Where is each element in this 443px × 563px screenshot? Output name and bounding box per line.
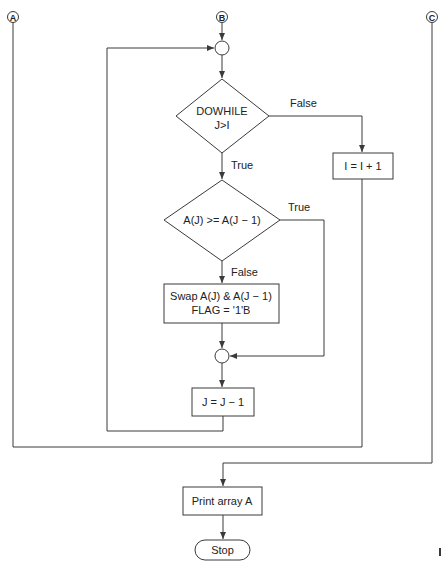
- label-dowhile-false: False: [290, 97, 317, 109]
- connector-c-label: C: [429, 13, 436, 23]
- process-increment-i: I = I + 1: [333, 153, 393, 179]
- connector-b-label: B: [219, 13, 226, 23]
- process-decrement-j-label: J = J − 1: [202, 396, 244, 408]
- decision-compare: A(J) >= A(J − 1): [164, 180, 280, 261]
- process-swap-line2: FLAG = '1'B: [192, 304, 251, 316]
- label-dowhile-true: True: [231, 159, 253, 171]
- connector-c: C: [427, 12, 438, 23]
- flowchart: A B C DOWHILE J>I False I = I + 1 True A…: [0, 0, 443, 563]
- terminator-stop-label: Stop: [211, 544, 234, 556]
- connector-a-label: A: [10, 13, 17, 23]
- process-swap-line1: Swap A(J) & A(J − 1): [170, 290, 272, 302]
- decision-dowhile-line2: J>I: [215, 119, 230, 131]
- terminator-stop: Stop: [195, 540, 250, 560]
- connector-b: B: [217, 12, 228, 23]
- connector-a: A: [8, 12, 19, 23]
- decision-dowhile: DOWHILE J>I: [176, 79, 269, 153]
- decision-dowhile-line1: DOWHILE: [196, 105, 247, 117]
- decision-compare-label: A(J) >= A(J − 1): [183, 214, 260, 226]
- edge-dowhile-false: [269, 116, 362, 152]
- edge-c-to-print: [223, 23, 432, 486]
- process-increment-i-label: I = I + 1: [344, 160, 381, 172]
- label-compare-true: True: [288, 201, 310, 213]
- process-swap: Swap A(J) & A(J − 1) FLAG = '1'B: [164, 284, 279, 323]
- process-print-label: Print array A: [192, 495, 253, 507]
- process-decrement-j: J = J − 1: [192, 388, 254, 416]
- junction-bottom: [215, 349, 229, 363]
- label-compare-false: False: [231, 266, 258, 278]
- junction-top: [215, 41, 229, 55]
- scan-artifact-mark: [439, 548, 441, 556]
- process-print: Print array A: [183, 487, 262, 515]
